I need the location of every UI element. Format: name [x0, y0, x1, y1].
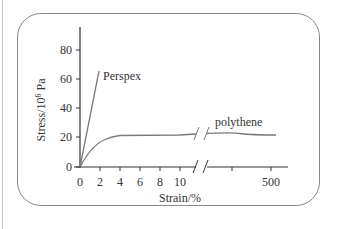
x-tick-label: 4: [117, 175, 123, 189]
x-ticks: [100, 167, 271, 171]
y-axis-label: Stress/106 Pa: [34, 78, 48, 142]
polythene-label: polythene: [215, 115, 262, 129]
x-tick-label: 8: [157, 175, 163, 189]
x-tick-label: 500: [262, 175, 280, 189]
y-tick-label: 40: [60, 101, 72, 115]
x-tick-label: 0: [77, 175, 83, 189]
x-axis-label: Strain/%: [159, 191, 201, 205]
perspex-label: Perspex: [103, 69, 141, 83]
polythene-curve: [80, 134, 196, 167]
y-tick-label: 80: [60, 43, 72, 57]
y-tick-label: 20: [60, 130, 72, 144]
y-tick-label: 0: [66, 160, 72, 174]
x-tick-label: 6: [137, 175, 143, 189]
polythene-curve-continued: [207, 133, 276, 135]
y-tick-label: 60: [60, 72, 72, 86]
x-tick-label: 10: [174, 175, 186, 189]
stress-strain-chart: 0 20 40 60 80 0 2 4 6 8 10 500 Strain/% …: [0, 0, 337, 229]
x-tick-label: 2: [97, 175, 103, 189]
